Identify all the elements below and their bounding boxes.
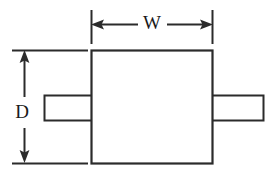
depth-dimension-label: D [15,101,29,122]
package-body [92,51,213,164]
width-dimension-label: W [143,12,161,33]
right-lead [212,96,264,121]
dimension-diagram: D W [0,0,276,176]
left-lead [45,96,93,121]
diagram-canvas: D W [0,0,276,176]
